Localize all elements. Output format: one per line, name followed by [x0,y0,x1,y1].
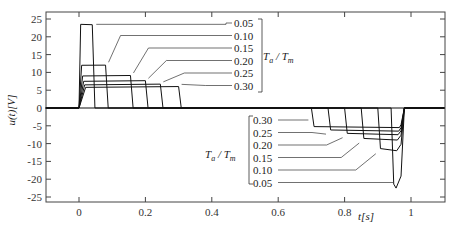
x-tick-label: 0 [76,206,82,218]
upper-label-0.05: 0.05 [234,17,254,29]
x-tick-label: 1 [408,206,414,218]
lower-label-0.20: 0.20 [253,139,273,151]
lower-label-0.30: 0.30 [253,114,273,126]
y-tick-label: 25 [31,13,43,25]
x-tick-label: 0.4 [205,206,219,218]
y-tick-label: -25 [27,191,42,203]
y-tick-label: -15 [27,155,42,167]
y-axis-label: u(t)[V] [5,94,18,125]
x-axis-label: t[s] [358,210,374,222]
upper-label-0.10: 0.10 [234,30,254,42]
upper-label-0.15: 0.15 [234,42,254,54]
series-line-0.30 [46,87,444,128]
chart: 2520151050-5-10-15-20-25 00.20.40.60.81 … [0,0,460,230]
group-label-upper: Ta / Tm [263,50,294,65]
y-tick-label: 15 [31,49,43,61]
y-tick-label: 5 [37,84,43,96]
x-tick-label: 0.8 [338,206,352,218]
upper-label-0.25: 0.25 [234,67,254,79]
y-tick-label: 20 [31,31,43,43]
y-tick-label: 10 [31,66,43,78]
annotations: 0.050.100.150.200.250.30Ta / Tm0.300.250… [96,17,393,189]
y-tick-label: -20 [27,173,42,185]
y-tick-label: -10 [27,138,42,150]
upper-label-0.20: 0.20 [234,55,254,67]
upper-label-0.30: 0.30 [234,80,254,92]
lower-label-0.15: 0.15 [253,152,273,164]
y-tick-label: -5 [33,120,43,132]
x-tick-label: 0.6 [271,206,285,218]
x-tick-label: 0.2 [139,206,153,218]
lower-label-0.05: 0.05 [253,177,273,189]
lower-label-0.25: 0.25 [253,127,273,139]
group-label-lower: Ta / Tm [205,148,236,163]
y-tick-label: 0 [37,102,43,114]
lower-label-0.10: 0.10 [253,164,273,176]
